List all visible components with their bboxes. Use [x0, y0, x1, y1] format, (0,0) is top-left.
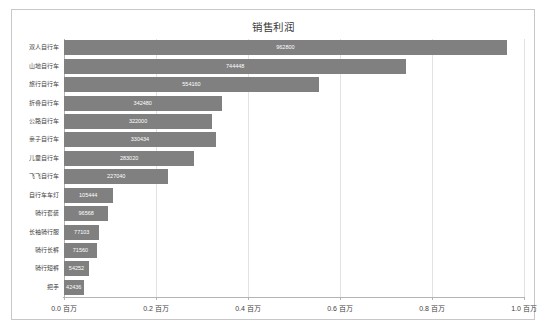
bar-row: 把手42436 — [64, 279, 524, 297]
bar-value-label: 342480 — [64, 96, 222, 111]
tick-mark — [156, 297, 157, 300]
x-axis-line — [63, 297, 524, 298]
bar-row: 折叠自行车342480 — [64, 95, 524, 113]
tick-label: 1.0 百万 — [511, 303, 537, 313]
category-label: 公路自行车 — [29, 114, 59, 129]
x-axis: 0.0 百万0.2 百万0.4 百万0.6 百万0.8 百万1.0 百万 — [64, 297, 524, 321]
bar-value-label: 54252 — [64, 261, 89, 276]
tick-label: 0.8 百万 — [419, 303, 445, 313]
bar-value-label: 330434 — [64, 132, 216, 147]
bar-row: 双人自行车962800 — [64, 39, 524, 57]
plot-area: 双人自行车962800山地自行车744448旅行自行车554160折叠自行车34… — [64, 39, 524, 297]
tick-mark — [340, 297, 341, 300]
tick-label: 0.2 百万 — [143, 303, 169, 313]
category-label: 双人自行车 — [29, 40, 59, 55]
bar-row: 骑行短裤54252 — [64, 260, 524, 278]
tick-mark — [64, 297, 65, 300]
bar-value-label: 322000 — [64, 114, 212, 129]
category-label: 儿童自行车 — [29, 151, 59, 166]
bar-row: 旅行自行车554160 — [64, 76, 524, 94]
bar-value-label: 96568 — [64, 206, 108, 221]
category-label: 旅行自行车 — [29, 77, 59, 92]
tick-label: 0.6 百万 — [327, 303, 353, 313]
category-label: 骑行长裤 — [35, 243, 59, 258]
bar-value-label: 42436 — [64, 280, 84, 295]
bar-row: 亲子自行车330434 — [64, 131, 524, 149]
category-label: 折叠自行车 — [29, 96, 59, 111]
tick-mark — [432, 297, 433, 300]
category-label: 骑行套装 — [35, 206, 59, 221]
bar-row: 飞飞自行车227040 — [64, 168, 524, 186]
gridline — [524, 39, 525, 297]
chart-frame: 销售利润 双人自行车962800山地自行车744448旅行自行车554160折叠… — [11, 9, 535, 320]
bar-value-label: 71560 — [64, 243, 97, 258]
category-label: 山地自行车 — [29, 59, 59, 74]
bar-value-label: 77103 — [64, 225, 99, 240]
category-label: 亲子自行车 — [29, 132, 59, 147]
tick-mark — [248, 297, 249, 300]
bar-row: 山地自行车744448 — [64, 58, 524, 76]
bar-row: 儿童自行车283020 — [64, 150, 524, 168]
bar-row: 公路自行车322000 — [64, 113, 524, 131]
tick-label: 0.0 百万 — [51, 303, 77, 313]
bar-value-label: 962800 — [64, 40, 507, 55]
category-label: 长袖骑行服 — [29, 225, 59, 240]
bar-row: 骑行套装96568 — [64, 205, 524, 223]
bar-value-label: 283020 — [64, 151, 194, 166]
chart-title: 销售利润 — [12, 19, 534, 34]
bar-value-label: 227040 — [64, 169, 168, 184]
category-label: 把手 — [47, 280, 59, 295]
category-label: 飞飞自行车 — [29, 169, 59, 184]
category-label: 骑行短裤 — [35, 261, 59, 276]
bar-row: 骑行长裤71560 — [64, 242, 524, 260]
tick-mark — [524, 297, 525, 300]
category-label: 自行车车灯 — [29, 188, 59, 203]
bar-row: 自行车车灯105444 — [64, 187, 524, 205]
tick-label: 0.4 百万 — [235, 303, 261, 313]
bar-value-label: 105444 — [64, 188, 113, 203]
bar-value-label: 554160 — [64, 77, 319, 92]
bar-row: 长袖骑行服77103 — [64, 224, 524, 242]
bar-value-label: 744448 — [64, 59, 406, 74]
